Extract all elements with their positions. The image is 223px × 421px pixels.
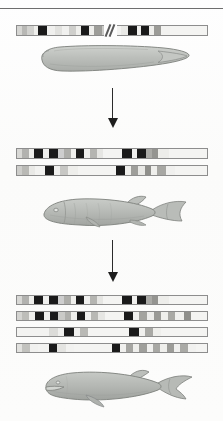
chromosome-band (153, 328, 160, 336)
arrow-head (108, 272, 118, 282)
organism-lancelet (36, 40, 191, 76)
chromosome-band (94, 26, 101, 35)
chromosome-band (103, 296, 122, 304)
chromosome-band (175, 166, 208, 175)
chromosome-band (45, 166, 53, 175)
chromosome-band (184, 312, 192, 320)
chromosome-band (105, 312, 125, 320)
chromosome-band (66, 344, 74, 352)
chromosome-band (180, 344, 187, 352)
chromosome-band (139, 312, 147, 320)
chromosome-band (124, 312, 133, 320)
chromosome-band (35, 312, 44, 320)
chromosome-band (80, 328, 89, 336)
chromosome-band (170, 26, 208, 35)
chromosome-band (196, 344, 208, 352)
chromosome-band (57, 344, 65, 352)
chromosome-band (141, 26, 149, 35)
chromosome-band (169, 149, 208, 158)
chromosome-band (77, 312, 86, 320)
chromosome-bar (16, 165, 208, 176)
chromosome-band (68, 166, 79, 175)
chromosome-band (76, 296, 84, 304)
chromosome-band (128, 26, 136, 35)
chromosome-band (121, 26, 128, 35)
chromosome-band (35, 166, 46, 175)
chromosome-band (76, 149, 84, 158)
chromosome-band (154, 26, 161, 35)
chromosome-band (74, 344, 112, 352)
chromosome-band (161, 26, 169, 35)
chromosome-band (122, 296, 131, 304)
chromosome-bar (16, 295, 208, 305)
chromosome-band (158, 149, 169, 158)
chromosome-band (166, 166, 175, 175)
top-rule-line (0, 8, 223, 9)
chromosome-band (49, 344, 57, 352)
chromosome-bar (16, 327, 208, 337)
chromosome-band (49, 296, 58, 304)
chromosome-band (112, 344, 120, 352)
chromosome-band (69, 26, 76, 35)
chromosome-band (55, 26, 62, 35)
chromosome-band (168, 312, 176, 320)
chromosome-band (78, 166, 116, 175)
chromosome-band (137, 296, 145, 304)
chromosome-band (49, 328, 58, 336)
genome-duplication-figure (0, 0, 223, 421)
chromosome-bar (16, 311, 208, 321)
chromosome-band (88, 328, 129, 336)
organism-fish (40, 190, 192, 234)
chromosome-band (175, 312, 184, 320)
chromosome-band (169, 296, 208, 304)
chromosome-band (108, 26, 121, 35)
chromosome-bar (16, 25, 208, 36)
chromosome-band (17, 328, 49, 336)
chromosome-band (191, 312, 208, 320)
chromosome-band (131, 166, 138, 175)
chromosome-bar (16, 343, 208, 353)
organism-whale (42, 364, 194, 410)
chromosome-band (47, 26, 55, 35)
chromosome-band (64, 328, 74, 336)
chromosome-band (90, 296, 97, 304)
chromosome-band (161, 328, 208, 336)
chromosome-band (103, 149, 122, 158)
chromosome-band (139, 344, 146, 352)
chromosome-group-whale (16, 295, 208, 359)
chromosome-band (126, 344, 133, 352)
chromosome-band (38, 26, 47, 35)
chromosome-bar (16, 148, 208, 159)
chromosome-band (154, 312, 162, 320)
chromosome-band (167, 344, 174, 352)
chromosome-band (90, 149, 97, 158)
arrow-shaft (112, 240, 113, 272)
chromosome-band (34, 296, 43, 304)
chromosome-band (38, 344, 49, 352)
chromosome-band (153, 344, 160, 352)
chromosome-band (158, 296, 169, 304)
chromosome-band (129, 328, 139, 336)
chromosome-band (22, 344, 29, 352)
arrow-shaft (112, 88, 113, 118)
chromosome-band (49, 149, 58, 158)
chromosome-group-fish (16, 148, 208, 182)
chromosome-band (50, 312, 59, 320)
chromosome-band (157, 166, 165, 175)
chromosome-band (91, 312, 99, 320)
chromosome-bar-wrapper (16, 25, 208, 36)
chromosome-band (116, 166, 124, 175)
chromosome-band (60, 166, 67, 175)
chromosome-band (145, 328, 154, 336)
chromosome-band (122, 149, 131, 158)
chromosome-band (137, 149, 145, 158)
arrow-head (108, 118, 118, 128)
chromosome-band (34, 149, 43, 158)
chromosome-band (30, 344, 38, 352)
chromosome-band (188, 344, 196, 352)
chromosome-band (81, 26, 89, 35)
